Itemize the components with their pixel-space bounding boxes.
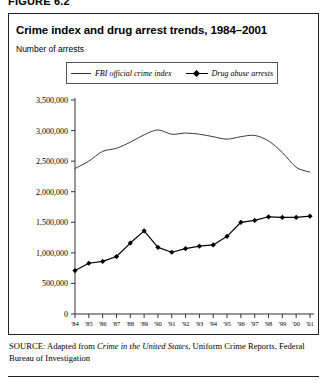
line-chart-svg: 0500,0001,000,0001,500,0002,000,0002,500… [9,92,320,342]
x-tick-label: '00 [292,320,300,327]
x-tick-label: '01 [306,320,314,327]
x-tick-label: '93 [196,320,204,327]
data-point-marker [252,218,257,223]
source-label: SOURCE: [9,341,45,351]
y-tick-label: 2,000,000 [36,188,68,197]
legend-label-drug-arrests: Drug abuse arrests [212,69,273,78]
data-point-marker [307,214,312,219]
y-tick-label: 1,000,000 [36,249,68,258]
data-point-marker [100,259,105,264]
legend-entry-drug-arrests: Drug abuse arrests [186,69,273,78]
legend-swatch-crime-index [71,73,91,74]
x-tick-label: '88 [126,320,134,327]
data-point-marker [280,215,285,220]
figure-bordered-panel: Crime index and drug arrest trends, 1984… [8,13,319,335]
legend-label-crime-index: FBI official crime index [95,69,172,78]
legend-swatch-drug-arrests [186,70,208,77]
legend-entry-crime-index: FBI official crime index [71,69,172,78]
y-tick-label: 3,000,000 [36,127,68,136]
x-tick-label: '95 [223,320,231,327]
x-tick-label: '90 [154,320,162,327]
x-tick-label: '98 [265,320,273,327]
x-tick-label: '91 [168,320,176,327]
data-point-marker [197,244,202,249]
data-point-marker [72,268,77,273]
data-point-marker [294,215,299,220]
data-point-marker [266,214,271,219]
x-tick-label: '99 [279,320,287,327]
x-tick-label: '86 [99,320,107,327]
x-tick-label: '92 [182,320,190,327]
figure-container: FIGURE 6.2 Crime index and drug arrest t… [0,0,327,383]
x-axis: '84'85'86'87'88'89'90'91'92'93'94'95'96'… [71,314,314,327]
x-tick-label: '87 [113,320,121,327]
y-axis: 0500,0001,000,0001,500,0002,000,0002,500… [36,96,75,319]
chart-legend: FBI official crime index Drug abuse arre… [66,62,278,84]
data-point-marker [169,250,174,255]
series-line-drug-arrests [75,216,310,270]
y-tick-label: 3,500,000 [36,96,68,105]
source-note: SOURCE: Adapted from Crime in the United… [9,341,314,364]
data-point-marker [86,261,91,266]
x-tick-label: '89 [140,320,148,327]
source-title-italic: Crime in the United States [97,341,188,351]
x-tick-label: '97 [251,320,259,327]
y-tick-label: 2,500,000 [36,157,68,166]
chart-title: Crime index and drug arrest trends, 1984… [16,24,267,36]
data-series-group [72,130,312,273]
data-point-marker [183,246,188,251]
x-tick-label: '94 [209,320,217,327]
plot-area: 0500,0001,000,0001,500,0002,000,0002,500… [9,92,320,342]
source-text-before: Adapted from [45,341,97,351]
chart-subtitle: Number of arrests [16,44,84,54]
x-tick-label: '96 [237,320,245,327]
y-tick-label: 1,500,000 [36,218,68,227]
bottom-divider [8,376,319,377]
y-tick-label: 500,000 [42,279,68,288]
y-tick-label: 0 [64,310,68,319]
figure-number-label: FIGURE 6.2 [8,0,70,7]
series-line-crime-index [75,130,310,172]
x-tick-label: '84 [71,320,79,327]
x-tick-label: '85 [85,320,93,327]
